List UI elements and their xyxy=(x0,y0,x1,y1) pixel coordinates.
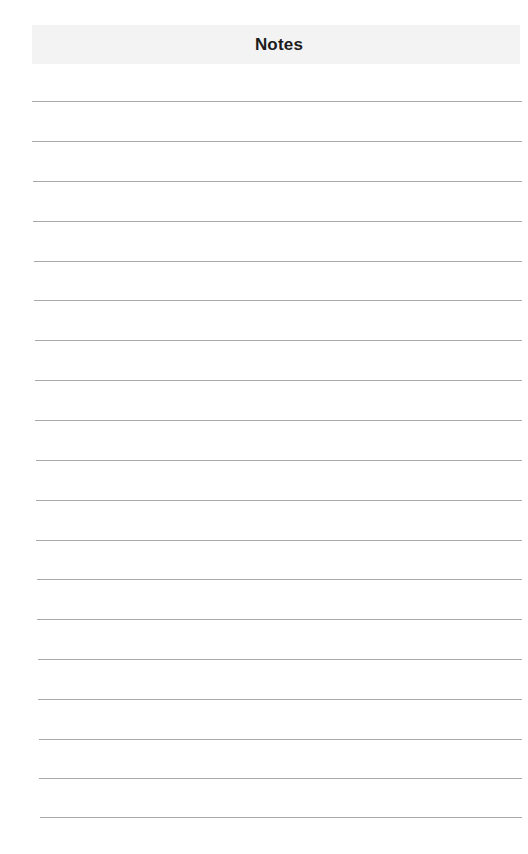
ruled-line xyxy=(37,619,522,620)
ruled-line xyxy=(40,817,522,818)
ruled-line xyxy=(32,141,522,142)
ruled-line xyxy=(35,340,522,341)
ruled-line xyxy=(33,221,522,222)
ruled-line xyxy=(34,261,522,262)
ruled-line xyxy=(38,699,522,700)
ruled-lines-area xyxy=(0,0,528,854)
ruled-line xyxy=(36,500,522,501)
ruled-line xyxy=(35,380,522,381)
ruled-line xyxy=(38,659,522,660)
ruled-line xyxy=(36,460,522,461)
ruled-line xyxy=(35,420,522,421)
ruled-line xyxy=(32,101,522,102)
notes-page: Notes xyxy=(0,0,528,854)
ruled-line xyxy=(34,300,522,301)
ruled-line xyxy=(37,579,522,580)
ruled-line xyxy=(39,778,522,779)
ruled-line xyxy=(39,739,522,740)
ruled-line xyxy=(36,540,522,541)
ruled-line xyxy=(33,181,522,182)
